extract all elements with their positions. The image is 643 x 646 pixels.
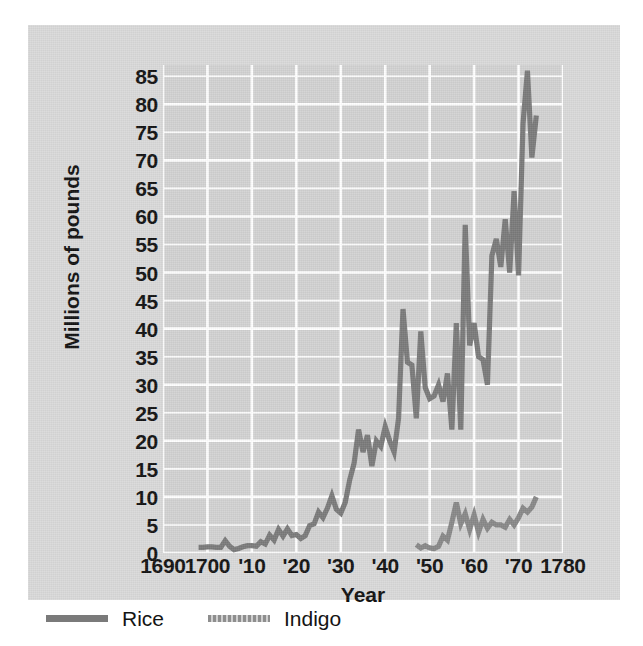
y-tick-label: 85 [118,66,158,87]
x-tick-label: '40 [371,555,398,576]
legend-label-rice: Rice [122,608,164,629]
chart-legend: Rice Indigo [46,608,341,629]
y-tick-label: 30 [118,375,158,396]
x-tick-label: 1780 [540,555,586,576]
plot-area [163,65,563,553]
y-tick-label: 20 [118,431,158,452]
y-tick-label: 55 [118,234,158,255]
y-tick-label: 65 [118,178,158,199]
indigo-line-swatch [208,615,270,622]
chart-figure: 0510152025303540455055606570758085 Milli… [0,0,643,646]
x-axis-ticks: 16901700'10'20'30'40'50'60'701780 [163,555,563,583]
rice-line-swatch [46,615,108,622]
x-tick-label: '50 [416,555,443,576]
series-layer [199,71,537,550]
y-tick-label: 75 [118,122,158,143]
y-tick-label: 80 [118,94,158,115]
x-tick-label: '70 [505,555,532,576]
y-tick-label: 70 [118,150,158,171]
y-tick-label: 60 [118,206,158,227]
x-axis-title: Year [163,583,563,607]
y-tick-label: 35 [118,347,158,368]
chart-panel: 0510152025303540455055606570758085 Milli… [28,25,620,600]
y-tick-label: 50 [118,263,158,284]
y-tick-label: 40 [118,319,158,340]
y-tick-label: 45 [118,291,158,312]
x-tick-label: '10 [238,555,265,576]
y-axis-ticks: 0510152025303540455055606570758085 [108,65,158,553]
x-tick-label: '20 [283,555,310,576]
legend-item-indigo: Indigo [208,608,341,629]
x-tick-label: '30 [327,555,354,576]
plot-canvas [163,65,563,553]
y-tick-label: 15 [118,459,158,480]
x-tick-label: '60 [460,555,487,576]
x-tick-label: 1690 [140,555,186,576]
y-tick-label: 25 [118,403,158,424]
y-axis-title: Millions of pounds [60,127,84,387]
gridlines [163,65,563,553]
x-tick-label: 1700 [185,555,231,576]
legend-label-indigo: Indigo [284,608,341,629]
series-line-rice [199,71,537,550]
y-tick-label: 5 [118,515,158,536]
y-tick-label: 10 [118,487,158,508]
legend-item-rice: Rice [46,608,164,629]
